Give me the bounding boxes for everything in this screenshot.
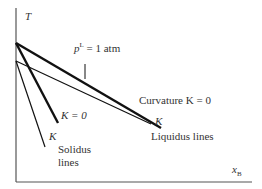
x-axis-subscript: B [237,170,242,178]
pressure-label: pL = 1 atm [74,40,120,54]
x-axis-label: xB [232,164,242,180]
liquidus-lines-label: Liquidus lines [151,131,214,142]
solidus-k-label: K [49,131,56,142]
solidus-lines-label-2: lines [58,157,79,168]
y-axis-label: T [25,11,31,22]
solidus-k0-label: K = 0 [61,110,87,121]
curvature-label: Curvature K = 0 [139,95,211,106]
solidus-line-curved [16,61,45,147]
liquidus-k-label: K [155,116,162,127]
pressure-value: = 1 atm [84,42,120,54]
phase-diagram-canvas [0,0,262,189]
solidus-lines-label-1: Solidus [58,144,91,155]
